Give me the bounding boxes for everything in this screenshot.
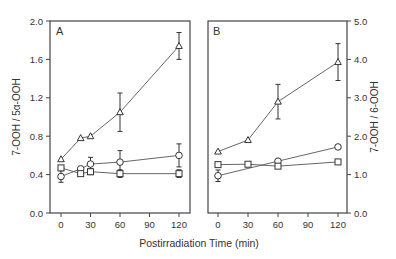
y-tick-label: 0.0 xyxy=(354,208,367,219)
x-tick-label: 0 xyxy=(58,219,63,230)
x-tick-label: 30 xyxy=(85,219,96,230)
triangle-marker xyxy=(176,42,183,48)
square-marker xyxy=(245,161,251,167)
x-tick-label: 0 xyxy=(215,219,220,230)
circle-marker xyxy=(87,161,94,168)
x-axis-label: Postirradiation Time (min) xyxy=(139,237,259,249)
y-tick-label: 5.0 xyxy=(354,16,367,27)
series-triangle xyxy=(58,33,183,162)
square-marker xyxy=(176,171,182,177)
x-tick-label: 120 xyxy=(171,219,187,230)
y-tick-label: 1.0 xyxy=(354,169,367,180)
square-marker xyxy=(335,159,341,165)
circle-marker xyxy=(335,144,342,151)
y-tick-label: 3.0 xyxy=(354,92,367,103)
panel-a: 03060901200.00.40.81.21.62.0 xyxy=(30,16,190,231)
x-tick-label: 90 xyxy=(303,219,314,230)
square-marker xyxy=(275,163,281,169)
x-tick-label: 60 xyxy=(273,219,284,230)
y-tick-label: 1.6 xyxy=(30,54,43,65)
circle-marker xyxy=(176,152,183,159)
circle-marker xyxy=(215,172,222,179)
square-marker xyxy=(117,171,123,177)
y-tick-label: 0.4 xyxy=(30,169,43,180)
y-tick-label: 2.0 xyxy=(30,16,43,27)
panel-label-a: A xyxy=(56,25,64,37)
triangle-marker xyxy=(335,59,342,65)
panel-b: 03060901200.01.02.03.04.05.0 xyxy=(208,16,367,231)
x-tick-label: 120 xyxy=(330,219,346,230)
triangle-marker xyxy=(87,133,94,139)
circle-marker xyxy=(58,173,65,180)
square-marker xyxy=(88,169,94,175)
x-tick-label: 90 xyxy=(144,219,155,230)
square-marker xyxy=(215,162,221,168)
square-marker xyxy=(58,165,64,171)
y-tick-label: 0.0 xyxy=(30,208,43,219)
y-tick-label: 1.2 xyxy=(30,92,43,103)
y-axis-label-left: 7-OOH / 5α-OOH xyxy=(11,78,22,155)
series-triangle xyxy=(215,44,342,154)
x-tick-label: 30 xyxy=(243,219,254,230)
panel-label-b: B xyxy=(213,25,220,37)
figure: 03060901200.00.40.81.21.62.0 03060901200… xyxy=(0,0,396,259)
y-tick-label: 0.8 xyxy=(30,131,43,142)
x-tick-label: 60 xyxy=(115,219,126,230)
circle-marker xyxy=(117,159,124,166)
square-marker xyxy=(78,171,84,177)
y-tick-label: 2.0 xyxy=(354,131,367,142)
triangle-marker xyxy=(275,98,282,104)
y-tick-label: 4.0 xyxy=(354,54,367,65)
y-axis-label-right: 7-OOH / 6-OOH xyxy=(369,81,380,153)
